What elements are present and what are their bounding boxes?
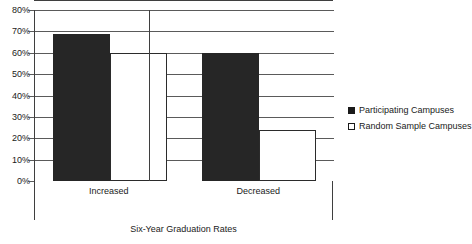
hollow-square-icon	[348, 123, 355, 130]
x-axis-category-label: Decreased	[184, 186, 334, 196]
legend-item-label: Random Sample Campuses	[359, 122, 472, 131]
category-divider	[149, 10, 150, 181]
gridline	[35, 10, 334, 11]
y-axis-tick-mark	[28, 160, 34, 161]
y-axis-tick-label: 0%	[0, 177, 30, 186]
bar	[53, 34, 110, 181]
y-axis-tick-mark	[28, 53, 34, 54]
bar	[259, 130, 316, 181]
y-axis-tick-label: 50%	[0, 70, 30, 79]
y-axis-tick-label: 20%	[0, 134, 30, 143]
gridline	[35, 31, 334, 32]
y-axis: 0%10%20%30%40%50%60%70%80%	[0, 0, 30, 244]
y-axis-tick-label: 10%	[0, 155, 30, 164]
y-axis-tick-mark	[28, 117, 34, 118]
legend-item-label: Participating Campuses	[359, 106, 454, 115]
bar	[110, 53, 167, 181]
y-axis-tick-label: 60%	[0, 48, 30, 57]
y-axis-tick-label: 40%	[0, 91, 30, 100]
filled-square-icon	[348, 107, 355, 114]
x-axis-title: Six-Year Graduation Rates	[34, 224, 333, 234]
y-axis-tick-label: 70%	[0, 27, 30, 36]
y-axis-tick-mark	[28, 74, 34, 75]
plot-area	[34, 10, 333, 181]
y-axis-tick-label: 80%	[0, 6, 30, 15]
y-axis-tick-label: 30%	[0, 112, 30, 121]
legend-item: Random Sample Campuses	[348, 122, 461, 131]
bar	[202, 53, 259, 181]
y-axis-tick-mark	[28, 138, 34, 139]
x-axis-category-label: Increased	[34, 186, 184, 196]
x-axis-line	[34, 0, 333, 1]
legend-item: Participating Campuses	[348, 106, 461, 115]
legend: Participating CampusesRandom Sample Camp…	[348, 106, 461, 138]
y-axis-tick-mark	[28, 96, 34, 97]
y-axis-tick-mark	[28, 181, 34, 182]
y-axis-tick-mark	[28, 31, 34, 32]
y-axis-tick-mark	[28, 10, 34, 11]
